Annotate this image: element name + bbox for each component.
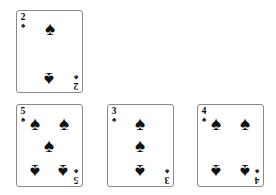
spade-icon: ♠ xyxy=(19,116,27,124)
spade-icon: ♠ xyxy=(253,167,261,175)
rank-label: 5 xyxy=(72,175,80,185)
spade-icon: ♠ xyxy=(237,115,253,133)
card-3-of-spades[interactable]: 3 ♠ ♠ ♠ ♠ 3 ♠ xyxy=(107,104,174,187)
spade-icon: ♠ xyxy=(132,137,148,155)
spade-icon: ♠ xyxy=(72,73,80,81)
spade-icon: ♠ xyxy=(27,162,43,180)
card-4-of-spades[interactable]: 4 ♠ ♠ ♠ ♠ ♠ 4 ♠ xyxy=(197,104,264,187)
card-index-bottom: 2 ♠ xyxy=(72,73,80,91)
rank-label: 4 xyxy=(253,175,261,185)
card-index-top: 5 ♠ xyxy=(19,106,27,124)
spade-icon: ♠ xyxy=(208,115,224,133)
spade-icon: ♠ xyxy=(27,115,43,133)
card-index-top: 3 ♠ xyxy=(110,106,118,124)
spade-icon: ♠ xyxy=(132,162,148,180)
spade-icon: ♠ xyxy=(208,162,224,180)
card-5-of-spades[interactable]: 5 ♠ ♠ ♠ ♠ ♠ ♠ 5 ♠ xyxy=(16,104,83,187)
spade-icon: ♠ xyxy=(132,115,148,133)
card-index-bottom: 4 ♠ xyxy=(253,167,261,185)
spade-icon: ♠ xyxy=(237,162,253,180)
spade-icon: ♠ xyxy=(72,167,80,175)
card-index-top: 4 ♠ xyxy=(200,106,208,124)
card-index-bottom: 5 ♠ xyxy=(72,167,80,185)
spade-icon: ♠ xyxy=(163,167,171,175)
rank-label: 2 xyxy=(72,81,80,91)
rank-label: 3 xyxy=(163,175,171,185)
card-2-of-spades[interactable]: 2 ♠ ♠ ♠ 2 ♠ xyxy=(16,10,83,93)
spade-icon: ♠ xyxy=(42,20,58,38)
spade-icon: ♠ xyxy=(56,115,72,133)
spade-icon: ♠ xyxy=(200,116,208,124)
spade-icon: ♠ xyxy=(55,162,71,180)
card-index-top: 2 ♠ xyxy=(19,12,27,30)
spade-icon: ♠ xyxy=(19,22,27,30)
spade-icon: ♠ xyxy=(110,116,118,124)
spade-icon: ♠ xyxy=(41,137,57,155)
spade-icon: ♠ xyxy=(41,70,57,88)
card-index-bottom: 3 ♠ xyxy=(163,167,171,185)
